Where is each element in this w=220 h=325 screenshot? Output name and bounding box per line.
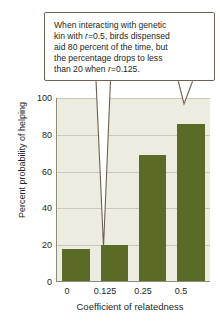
y-tick-0: 0 (18, 278, 52, 287)
callout-line-5b: =0.125. (111, 64, 140, 74)
callout-line-5a: than 20 when (54, 64, 108, 74)
gridline-100 (57, 98, 210, 99)
x-tick-025: 0.25 (124, 286, 162, 296)
callout-line-2b: =0.5, birds dispensed (88, 31, 170, 41)
y-axis-line (56, 98, 57, 282)
bar-025 (139, 155, 167, 282)
callout-line-2a: kin with (54, 31, 85, 41)
callout-box: When interacting with genetic kin with r… (44, 12, 215, 81)
x-axis-line (57, 281, 210, 282)
callout-line-1: When interacting with genetic (54, 20, 166, 30)
x-axis-title: Coefficient of relatedness (40, 301, 220, 312)
y-axis-title: Percent probability of helping (17, 75, 27, 245)
callout-line-4: the percentage drops to less (54, 53, 162, 63)
x-tick-0: 0 (48, 286, 86, 296)
x-tick-0125: 0.125 (86, 286, 124, 296)
bar-chart-figure: 100 80 60 40 20 0 0 0.125 0.25 0.5 Perce… (0, 0, 220, 325)
callout-line-3: aid 80 percent of the time, but (54, 42, 168, 52)
bar-05 (177, 124, 205, 282)
bar-0 (62, 249, 90, 282)
bar-0125 (101, 245, 129, 282)
x-tick-05: 0.5 (162, 286, 200, 296)
callout-text: When interacting with genetic kin with r… (54, 20, 207, 75)
plot-area (57, 98, 210, 282)
